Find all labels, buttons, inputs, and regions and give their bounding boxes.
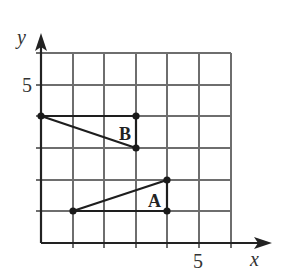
triangle-a: A xyxy=(69,176,170,214)
x-tick-label-5: 5 xyxy=(193,250,203,272)
x-axis xyxy=(41,237,272,249)
vertex-point xyxy=(163,207,170,214)
x-axis-label: x xyxy=(249,248,259,270)
triangle-a-label: A xyxy=(148,191,161,211)
triangle-b: B xyxy=(37,112,139,151)
vertex-point xyxy=(163,176,170,183)
y-axis-label: y xyxy=(15,26,26,49)
vertex-point xyxy=(69,207,76,214)
y-tick-label-5: 5 xyxy=(22,74,32,96)
vertex-point xyxy=(132,144,139,151)
coordinate-plane: y x 5 5 B A xyxy=(0,0,283,278)
vertex-point xyxy=(132,112,139,119)
triangle-b-label: B xyxy=(119,124,131,144)
vertex-point xyxy=(37,112,44,119)
